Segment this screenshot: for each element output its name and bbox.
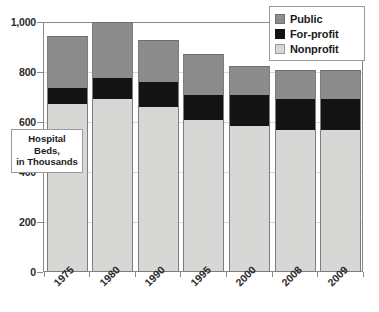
y-tick-mark-1000 [37,22,43,23]
bar-group-2008[interactable] [275,70,316,272]
bar-segment-forprofit-1990[interactable] [138,82,179,107]
bar-segment-public-1995[interactable] [183,54,224,95]
y-tick-label-1000: 1,000 [11,16,36,28]
y-tick-label-600: 600 [19,116,36,128]
bar-segment-forprofit-2008[interactable] [275,99,316,130]
x-tick-mark-1980 [89,272,90,277]
bar-segment-public-1980[interactable] [92,22,133,78]
y-tick-mark-800 [37,72,43,73]
y-tick-mark-600 [37,122,43,123]
bar-segment-nonprofit-1995[interactable] [183,120,224,272]
bar-segment-public-2009[interactable] [320,70,361,99]
bar-segment-forprofit-2000[interactable] [229,95,270,126]
bar-segment-public-1975[interactable] [47,36,88,88]
stacked-bar-chart: 02004006008001,000 197519801990199520002… [0,0,379,312]
y-axis-title: Hospital Beds, in Thousands [11,129,83,173]
bar-segment-nonprofit-2009[interactable] [320,130,361,272]
public-swatch-icon [275,14,285,24]
bar-group-2009[interactable] [320,70,361,272]
bar-segment-public-2008[interactable] [275,70,316,99]
x-tick-mark-2009 [317,272,318,277]
bar-group-1980[interactable] [92,22,133,272]
x-axis: 1975198019901995200020082009 [43,272,363,312]
legend-item-nonprofit[interactable]: Nonprofit [275,41,359,56]
y-axis-title-line1: Hospital [14,133,80,145]
bar-segment-nonprofit-2008[interactable] [275,130,316,272]
bar-segment-public-1990[interactable] [138,40,179,82]
bar-group-1995[interactable] [183,54,224,272]
y-tick-label-800: 800 [19,66,36,78]
nonprofit-swatch-icon [275,44,285,54]
bar-segment-forprofit-1980[interactable] [92,78,133,99]
y-tick-label-200: 200 [19,216,36,228]
x-tick-mark-end [363,272,364,277]
y-tick-mark-200 [37,222,43,223]
for-profit-swatch-icon [275,29,285,39]
x-tick-mark-2008 [272,272,273,277]
legend-label-nonprofit: Nonprofit [290,43,339,55]
x-tick-mark-1995 [180,272,181,277]
x-tick-mark-1990 [135,272,136,277]
bar-segment-forprofit-1995[interactable] [183,95,224,120]
bar-segment-forprofit-1975[interactable] [47,88,88,104]
legend-label-for-profit: For-profit [290,28,338,40]
legend-label-public: Public [290,13,322,25]
x-tick-mark-2000 [226,272,227,277]
bar-group-2000[interactable] [229,66,270,272]
bar-segment-forprofit-2009[interactable] [320,99,361,130]
bar-segment-nonprofit-1980[interactable] [92,99,133,272]
bar-segment-nonprofit-2000[interactable] [229,126,270,272]
y-tick-label-0: 0 [30,266,36,278]
bar-segment-public-2000[interactable] [229,66,270,95]
legend-item-public[interactable]: Public [275,11,359,26]
y-axis-title-line2: Beds, [14,145,80,157]
chart-legend: Public For-profit Nonprofit [269,6,365,61]
bar-group-1990[interactable] [138,40,179,272]
x-tick-mark-1975 [44,272,45,277]
y-axis-title-line3: in Thousands [14,156,80,168]
legend-item-for-profit[interactable]: For-profit [275,26,359,41]
bar-segment-nonprofit-1990[interactable] [138,107,179,272]
